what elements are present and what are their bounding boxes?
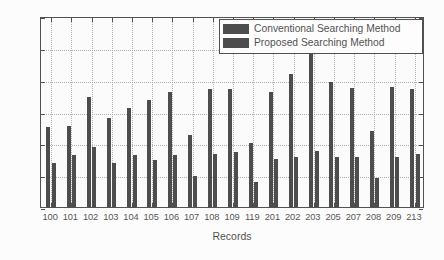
- x-axis-tick-mark: [152, 18, 153, 22]
- x-axis-title: Records: [40, 230, 424, 242]
- x-axis-tick-mark: [132, 18, 133, 22]
- x-axis-tick-label: 100: [42, 212, 57, 222]
- chart-legend: Conventional Searching Method Proposed S…: [219, 19, 423, 54]
- bar-proposed-104: [133, 155, 137, 207]
- bar-chart-figure: Computational Time (s) 0123456 100101102…: [0, 0, 444, 260]
- y-axis-tick-mark: [41, 18, 45, 19]
- x-axis-tick-mark: [253, 203, 254, 207]
- x-axis-tick-mark: [415, 203, 416, 207]
- bar-proposed-107: [193, 176, 197, 208]
- x-axis-tick-mark: [51, 203, 52, 207]
- legend-swatch-icon-proposed: [223, 38, 249, 48]
- bar-conventional-103: [107, 118, 111, 207]
- y-axis-tick-mark: [419, 82, 423, 83]
- bar-proposed-209: [395, 157, 399, 207]
- x-axis-tick-label: 106: [164, 212, 179, 222]
- bar-conventional-208: [370, 131, 374, 207]
- bar-proposed-100: [52, 163, 56, 207]
- x-axis-tick-mark: [112, 203, 113, 207]
- x-axis-tick-mark: [92, 203, 93, 207]
- x-axis-tick-label: 101: [63, 212, 78, 222]
- x-axis-tick-label: 102: [83, 212, 98, 222]
- bar-proposed-106: [173, 155, 177, 207]
- x-axis-tick-label: 207: [346, 212, 361, 222]
- x-axis-tick-mark: [193, 18, 194, 22]
- x-axis-tick-mark: [233, 203, 234, 207]
- y-axis-tick-mark: [41, 209, 45, 210]
- y-axis-tick-mark: [41, 177, 45, 178]
- x-axis-tick-label: 205: [325, 212, 340, 222]
- bar-proposed-213: [416, 154, 420, 207]
- x-axis-tick-label: 104: [123, 212, 138, 222]
- x-axis-tick-label: 213: [406, 212, 421, 222]
- bar-conventional-102: [87, 97, 91, 207]
- x-axis-tick-label: 105: [144, 212, 159, 222]
- bar-proposed-119: [254, 182, 258, 207]
- y-axis-tick-mark: [41, 50, 45, 51]
- x-axis-tick-mark: [112, 18, 113, 22]
- bar-conventional-108: [208, 89, 212, 207]
- bar-proposed-201: [274, 159, 278, 207]
- legend-label-proposed: Proposed Searching Method: [254, 37, 385, 49]
- y-axis-tick-mark: [419, 209, 423, 210]
- y-axis-tick-mark: [41, 82, 45, 83]
- x-axis-tick-mark: [51, 18, 52, 22]
- x-axis-tick-mark: [374, 203, 375, 207]
- x-axis-tick-mark: [213, 203, 214, 207]
- x-axis-tick-mark: [132, 203, 133, 207]
- bar-conventional-201: [269, 92, 273, 207]
- x-axis-tick-mark: [213, 18, 214, 22]
- x-axis-tick-mark: [71, 18, 72, 22]
- bar-proposed-103: [112, 163, 116, 207]
- bar-conventional-107: [188, 135, 192, 207]
- y-axis-tick-mark: [419, 177, 423, 178]
- bar-conventional-209: [390, 87, 394, 207]
- bar-conventional-104: [127, 108, 131, 207]
- x-axis-tick-mark: [314, 203, 315, 207]
- bar-proposed-208: [375, 178, 379, 207]
- x-axis-tick-mark: [193, 203, 194, 207]
- x-axis-tick-label: 103: [103, 212, 118, 222]
- legend-label-conventional: Conventional Searching Method: [254, 23, 401, 35]
- bar-conventional-100: [46, 127, 50, 207]
- x-axis-tick-mark: [71, 203, 72, 207]
- x-axis-tick-label: 119: [245, 212, 260, 222]
- bar-proposed-109: [234, 152, 238, 207]
- bar-proposed-205: [335, 157, 339, 207]
- x-axis-tick-label: 107: [184, 212, 199, 222]
- x-axis-tick-mark: [152, 203, 153, 207]
- x-axis-tick-mark: [294, 203, 295, 207]
- bar-proposed-105: [153, 160, 157, 207]
- x-axis-tick-mark: [273, 203, 274, 207]
- x-axis-tick-label: 108: [204, 212, 219, 222]
- bar-conventional-109: [228, 89, 232, 207]
- bar-conventional-207: [350, 88, 354, 207]
- y-axis-tick-mark: [419, 114, 423, 115]
- bar-conventional-106: [168, 92, 172, 207]
- bar-conventional-203: [309, 49, 313, 207]
- x-axis-tick-label: 203: [305, 212, 320, 222]
- bar-proposed-202: [294, 157, 298, 207]
- y-axis-tick-mark: [41, 145, 45, 146]
- y-axis-tick-mark: [41, 114, 45, 115]
- x-axis-tick-label: 201: [265, 212, 280, 222]
- x-axis-tick-mark: [354, 203, 355, 207]
- y-axis-tick-mark: [419, 145, 423, 146]
- bar-conventional-202: [289, 74, 293, 207]
- x-axis-tick-mark: [334, 203, 335, 207]
- x-axis-tick-label: 209: [386, 212, 401, 222]
- x-axis-tick-label: 208: [366, 212, 381, 222]
- legend-item-proposed: Proposed Searching Method: [223, 36, 419, 50]
- legend-swatch-icon-conventional: [223, 24, 249, 34]
- x-axis-tick-mark: [172, 203, 173, 207]
- bar-conventional-101: [67, 126, 71, 207]
- bar-conventional-213: [410, 89, 414, 207]
- bar-proposed-108: [213, 154, 217, 207]
- bar-proposed-203: [315, 151, 319, 207]
- bar-proposed-101: [72, 155, 76, 207]
- bar-conventional-105: [147, 100, 151, 207]
- bar-proposed-102: [92, 147, 96, 207]
- bar-conventional-205: [329, 82, 333, 207]
- y-axis-title-container: Computational Time (s): [2, 17, 16, 208]
- bar-conventional-119: [249, 143, 253, 207]
